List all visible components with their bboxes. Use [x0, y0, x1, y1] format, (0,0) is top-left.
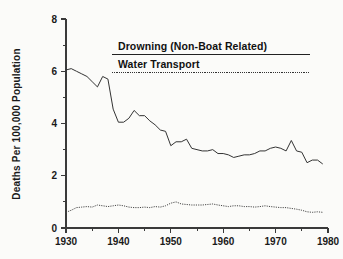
legend-label-water-transport: Water Transport	[118, 58, 200, 70]
series-group	[66, 69, 323, 213]
y-tick-label: 4	[51, 118, 57, 129]
y-axis-title: Deaths Per 100,000 Population	[11, 48, 22, 199]
legend-label-drowning: Drowning (Non-Boat Related)	[118, 40, 267, 52]
x-tick-label: 1960	[212, 236, 235, 247]
y-axis-tick-labels: 02468	[51, 14, 57, 234]
series-drowning-non-boat-related	[66, 69, 323, 164]
y-tick-label: 2	[51, 170, 57, 181]
x-axis-ticks	[66, 228, 328, 233]
legend: Drowning (Non-Boat Related) Water Transp…	[112, 40, 310, 73]
x-axis-tick-labels: 193019401950196019701980	[55, 236, 340, 247]
y-tick-label: 8	[51, 14, 57, 25]
chart-container: 02468 193019401950196019701980 Deaths Pe…	[0, 0, 343, 259]
deaths-per-100000-line-chart: 02468 193019401950196019701980 Deaths Pe…	[0, 0, 343, 259]
x-tick-label: 1930	[55, 236, 78, 247]
x-tick-label: 1970	[264, 236, 287, 247]
y-tick-label: 0	[51, 223, 57, 234]
x-tick-label: 1980	[317, 236, 340, 247]
series-water-transport	[66, 202, 323, 212]
x-tick-label: 1940	[107, 236, 130, 247]
y-axis-ticks	[61, 19, 66, 228]
x-tick-label: 1950	[160, 236, 183, 247]
y-tick-label: 6	[51, 66, 57, 77]
